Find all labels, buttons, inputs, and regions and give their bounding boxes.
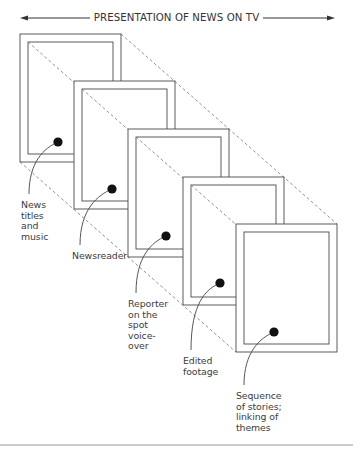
stage-label-3: Reporter on the spot voice- over xyxy=(128,299,168,352)
frame-outer xyxy=(236,224,337,352)
marker-dot-icon xyxy=(269,327,278,336)
marker-dot-icon xyxy=(53,137,62,146)
stage-label-4: Edited footage xyxy=(183,356,218,377)
stage-label-1: News titles and music xyxy=(21,200,48,242)
marker-dot-icon xyxy=(107,184,116,193)
stage-label-5: Sequence of stories; linking of themes xyxy=(236,391,281,433)
diagram-title-text: PRESENTATION OF NEWS ON TV xyxy=(90,12,264,23)
tv-frames xyxy=(20,34,337,385)
diagram-title: PRESENTATION OF NEWS ON TV xyxy=(0,12,353,23)
tv-frame-5 xyxy=(236,224,337,385)
news-presentation-diagram xyxy=(0,0,353,449)
marker-dot-icon xyxy=(161,231,170,240)
marker-dot-icon xyxy=(215,278,224,287)
stage-label-2: Newsreader xyxy=(72,251,127,262)
